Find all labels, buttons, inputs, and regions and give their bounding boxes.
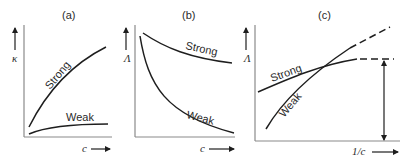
panel-a: (a) κ Strong Weak c xyxy=(12,9,112,154)
x-axis-label-c: 1/c xyxy=(352,145,366,157)
curve-label-weak-a: Weak xyxy=(66,111,94,123)
figure: (a) κ Strong Weak c (b) Λ Strong Weak c … xyxy=(0,0,411,162)
panel-label-a: (a) xyxy=(62,9,75,21)
x-axis-label-b: c xyxy=(200,142,205,154)
y-axis-label-b: Λ xyxy=(123,52,131,64)
panel-label-b: (b) xyxy=(182,9,195,21)
panel-b: (b) Λ Strong Weak c xyxy=(123,9,235,154)
curve-label-weak-c: Weak xyxy=(276,90,303,119)
curve-weak-c xyxy=(266,48,350,129)
x-axis-label-a: c xyxy=(82,142,87,154)
curve-weak-a xyxy=(29,124,108,134)
curve-label-weak-b: Weak xyxy=(186,108,216,127)
panel-label-c: (c) xyxy=(318,9,331,21)
y-axis-label-c: Λ xyxy=(243,52,251,64)
curve-label-strong-a: Strong xyxy=(42,59,72,92)
y-axis-label-a: κ xyxy=(12,52,18,64)
panel-c: (c) Λ Strong Weak 1/c xyxy=(243,9,400,157)
curve-weak-extrapolation-c xyxy=(350,27,390,48)
